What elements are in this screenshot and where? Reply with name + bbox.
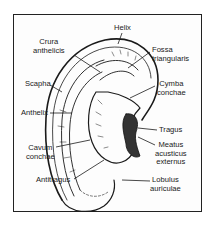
lobule-outline xyxy=(62,180,115,211)
label-fossa-triangularis: Fossa triangularis xyxy=(152,46,189,63)
label-tragus: Tragus xyxy=(159,126,182,135)
label-antitragus: Antitragus xyxy=(36,176,70,185)
label-anthelix: Anthelix xyxy=(21,109,48,118)
label-helix: Helix xyxy=(114,24,131,33)
label-lobulus-auriculae: Lobulus auriculae xyxy=(150,176,181,193)
label-meatus-acusticus-externus: Meatus acusticus externus xyxy=(155,141,187,167)
meatus-shading xyxy=(123,114,140,157)
label-cavum-conchae: Cavum conchae xyxy=(26,144,55,161)
label-cymba-conchae: Cymba conchae xyxy=(157,80,186,97)
label-scapha: Scapha xyxy=(25,80,51,89)
label-crura-anthelicis: Crura anthelicis xyxy=(33,38,65,55)
